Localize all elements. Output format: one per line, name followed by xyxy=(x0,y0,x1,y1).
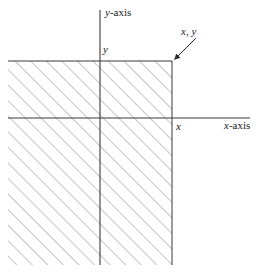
x-value-label: x xyxy=(176,121,181,132)
point-callout-arrow xyxy=(175,38,197,60)
coordinate-diagram: y-axis x-axis y x x, y xyxy=(0,0,267,273)
x-axis-label: x-axis xyxy=(224,120,250,131)
y-value-label: y xyxy=(103,44,108,55)
y-axis-label: y-axis xyxy=(105,7,131,18)
shaded-region xyxy=(8,61,172,265)
point-coordinates-label: x, y xyxy=(181,26,196,37)
diagram-canvas xyxy=(0,0,267,273)
